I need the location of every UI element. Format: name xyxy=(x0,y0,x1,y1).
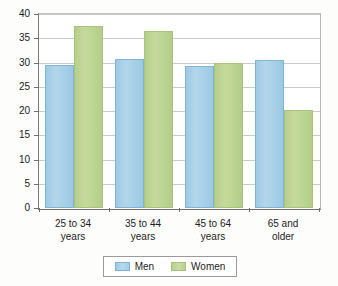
x-axis-label-2: 35 to 44years xyxy=(108,217,178,243)
y-tick-mark xyxy=(34,135,38,136)
bar-women-3 xyxy=(214,63,243,208)
bar-women-1 xyxy=(74,26,103,208)
bar-men-1 xyxy=(45,65,74,208)
y-tick-label: 15 xyxy=(4,130,30,140)
bar-men-4 xyxy=(255,60,284,208)
bars-group xyxy=(39,14,319,208)
y-tick-label: 25 xyxy=(4,82,30,92)
y-tick-mark xyxy=(34,208,38,209)
y-tick-label: 20 xyxy=(4,106,30,116)
legend-label: Women xyxy=(191,262,225,272)
legend-entry-women: Women xyxy=(171,262,225,272)
y-tick-mark xyxy=(34,111,38,112)
y-tick-mark xyxy=(34,184,38,185)
legend-label: Men xyxy=(135,262,154,272)
x-axis-label-line: 45 to 64 xyxy=(178,217,248,230)
x-axis-label-line: 65 and xyxy=(248,217,318,230)
y-tick-mark xyxy=(34,160,38,161)
women-color-swatch xyxy=(171,262,186,271)
bar-women-2 xyxy=(144,31,173,208)
y-tick-label: 30 xyxy=(4,58,30,68)
x-axis-label-line: 25 to 34 xyxy=(38,217,108,230)
x-tick-mark xyxy=(319,208,320,212)
chart-legend: MenWomen xyxy=(103,256,237,277)
bar-men-2 xyxy=(115,59,144,208)
men-color-swatch xyxy=(115,262,130,271)
x-axis-label-4: 65 andolder xyxy=(248,217,318,243)
y-tick-label: 35 xyxy=(4,33,30,43)
y-tick-label: 40 xyxy=(4,9,30,19)
legend-entry-men: Men xyxy=(115,262,154,272)
x-axis-label-line: older xyxy=(248,230,318,243)
x-tick-mark xyxy=(109,208,110,212)
y-tick-mark xyxy=(34,14,38,15)
x-axis-label-line: 35 to 44 xyxy=(108,217,178,230)
y-tick-mark xyxy=(34,38,38,39)
x-tick-mark xyxy=(39,208,40,212)
y-tick-mark xyxy=(34,87,38,88)
x-axis-label-line: years xyxy=(178,230,248,243)
x-axis: 25 to 34years35 to 44years45 to 64years6… xyxy=(38,214,320,248)
y-tick-label: 0 xyxy=(4,203,30,213)
bar-women-4 xyxy=(284,110,313,208)
x-axis-label-3: 45 to 64years xyxy=(178,217,248,243)
x-axis-label-line: years xyxy=(108,230,178,243)
y-axis: 4035302520151050 xyxy=(0,0,30,286)
bar-chart-figure: 4035302520151050 25 to 34years35 to 44ye… xyxy=(0,0,338,286)
x-axis-label-line: years xyxy=(38,230,108,243)
y-tick-label: 10 xyxy=(4,155,30,165)
y-tick-label: 5 xyxy=(4,179,30,189)
x-tick-mark xyxy=(179,208,180,212)
x-axis-label-1: 25 to 34years xyxy=(38,217,108,243)
x-tick-mark xyxy=(249,208,250,212)
y-tick-mark xyxy=(34,63,38,64)
bar-men-3 xyxy=(185,66,214,208)
